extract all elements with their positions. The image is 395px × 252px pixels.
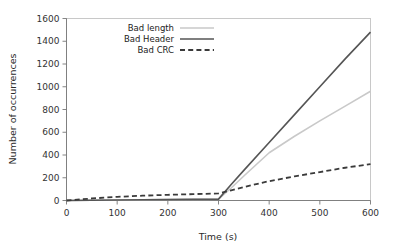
legend-label: Bad CRC <box>138 45 175 55</box>
x-tick-label: 200 <box>159 208 176 218</box>
plot-area-frame <box>67 19 371 201</box>
y-tick-label: 1400 <box>37 36 60 46</box>
y-tick-label: 200 <box>42 173 59 183</box>
y-tick-label: 1200 <box>37 59 60 69</box>
chart-legend: Bad lengthBad HeaderBad CRC <box>124 23 214 55</box>
line-chart: 02004006008001000120014001600 0100200300… <box>0 0 395 252</box>
y-tick-label: 600 <box>42 127 59 137</box>
x-tick-label: 0 <box>64 208 70 218</box>
x-tick-label: 500 <box>311 208 328 218</box>
chart-canvas: 02004006008001000120014001600 0100200300… <box>0 0 395 252</box>
x-tick-label: 100 <box>109 208 126 218</box>
x-tick-label: 600 <box>362 208 379 218</box>
y-axis-title: Number of occurrences <box>7 53 18 164</box>
x-tick-label: 300 <box>210 208 227 218</box>
legend-label: Bad length <box>128 23 174 33</box>
y-tick-label: 800 <box>42 105 59 115</box>
y-tick-label: 400 <box>42 150 59 160</box>
x-tick-label: 400 <box>261 208 278 218</box>
legend-label: Bad Header <box>124 34 175 44</box>
x-axis-title: Time (s) <box>198 231 238 242</box>
y-tick-label: 0 <box>54 196 60 206</box>
y-tick-label: 1000 <box>37 82 60 92</box>
y-tick-label: 1600 <box>37 14 60 24</box>
